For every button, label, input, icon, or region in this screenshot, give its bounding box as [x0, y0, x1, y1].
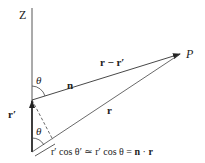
- physics-diagram: Z θ θ n r − r′ r r′ P r′ cos θ′ ≃ r′ cos…: [0, 0, 205, 163]
- theta-bottom-label: θ: [36, 125, 42, 137]
- r-label: r: [107, 104, 112, 116]
- z-axis-label: Z: [19, 8, 26, 22]
- r-prime-label: r′: [8, 108, 16, 120]
- point-p-label: P: [185, 47, 194, 61]
- theta-arc-top: [32, 86, 45, 96]
- theta-arc-bottom: [32, 138, 44, 145]
- theta-top-label: θ: [36, 74, 42, 86]
- n-label: n: [67, 79, 73, 91]
- r-minus-rprime-label: r − r′: [100, 56, 124, 68]
- projection-equation: r′ cos θ′ ≃ r′ cos θ = n · r: [51, 146, 153, 157]
- r-vector: [32, 54, 180, 152]
